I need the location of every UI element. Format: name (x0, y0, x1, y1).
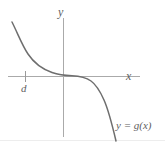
graph-figure: y x d y = g(x) (0, 0, 165, 151)
y-axis-label: y (58, 6, 63, 18)
x-axis-label: x (126, 70, 131, 82)
tick-label-d: d (21, 83, 27, 94)
curve-label: y = g(x) (116, 120, 152, 131)
